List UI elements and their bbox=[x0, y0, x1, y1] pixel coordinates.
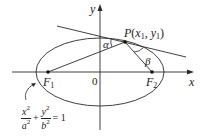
term2-den-exp: 2 bbox=[46, 118, 50, 126]
angle-alpha-label: α bbox=[103, 39, 109, 50]
equation-term2: y2 b2 bbox=[41, 105, 51, 131]
term1-num-exp: 2 bbox=[26, 104, 30, 112]
focal-line-f1-p bbox=[48, 42, 125, 72]
equation-rhs: = 1 bbox=[53, 113, 66, 123]
y-axis-label: y bbox=[90, 3, 95, 15]
y-axis-arrow-icon bbox=[98, 4, 103, 11]
tangent-line bbox=[57, 26, 186, 57]
angle-beta-arc bbox=[134, 48, 143, 52]
focus-f2-label: F2 bbox=[146, 76, 157, 90]
point-p-label: P(x1, y1) bbox=[124, 27, 164, 41]
angle-alpha-arc bbox=[111, 39, 112, 47]
point-p-close-paren: ) bbox=[160, 26, 164, 40]
x-axis-arrow-icon bbox=[187, 70, 194, 75]
x-axis-label: x bbox=[189, 76, 194, 88]
ellipse-equation: x2 a2 + y2 b2 = 1 bbox=[21, 105, 66, 131]
equation-pointer-arrow bbox=[25, 84, 34, 100]
term1-den-exp: 2 bbox=[27, 118, 31, 126]
origin-label: 0 bbox=[92, 76, 98, 87]
equation-term1: x2 a2 bbox=[21, 105, 31, 131]
focus-f2-sub: 2 bbox=[153, 81, 157, 90]
focus-f1-sub: 1 bbox=[50, 81, 54, 90]
term2-num-exp: 2 bbox=[46, 104, 50, 112]
focus-f1-label: F1 bbox=[43, 76, 54, 90]
focus-f1-point bbox=[46, 70, 50, 74]
focus-f2-point bbox=[150, 70, 154, 74]
angle-beta-label: β bbox=[145, 56, 150, 67]
equation-plus: + bbox=[33, 113, 39, 123]
